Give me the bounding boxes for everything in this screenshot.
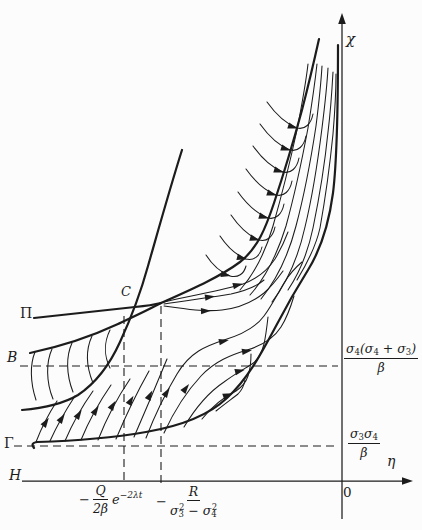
q-fraction: Q 2β [93,483,108,516]
upper-asymptote-numerator: σ4(σ4 + σ3) [344,341,418,359]
chi-axis-label: χ [346,32,355,47]
b-point-label: B [7,350,17,364]
eta-axis-label: η [387,454,395,468]
lower-asymptote-value: σ3σ4 β [348,426,380,460]
flow-arrowhead [57,412,68,424]
trajectory [98,379,130,440]
flow-arrowhead [234,367,245,376]
eta-axis-arrowhead [402,477,413,485]
trajectory [184,317,268,427]
flow-arrowhead [74,408,85,420]
exp-power: −2λt [120,490,143,500]
trajectory [164,271,283,311]
trajectory [88,336,93,383]
x-marker-1-label: − Q 2β e−2λt [79,483,142,516]
upper-asymptote-denominator: β [377,359,384,375]
trajectory [31,352,36,400]
dashed-guides [14,306,338,483]
trajectory [48,349,53,399]
gamma-line-label: Γ [4,436,14,450]
pi-line [34,303,161,318]
exp-base: e [112,492,120,507]
flow-arrowhead [162,386,173,398]
steep-c-curve [22,150,182,410]
flow-arrowhead [126,394,137,406]
flow-arrowhead [180,382,191,394]
trajectory [164,280,264,304]
lower-asymptote-denominator: β [360,444,367,460]
x-marker-2-label: − R σ32 − σ42 [156,484,218,519]
c-point-label: C [121,285,131,298]
flow-arrowhead [218,337,229,345]
trajectory [68,343,73,392]
minus-sign: − [156,494,167,509]
h-line-label: H [9,468,21,482]
trajectory [146,262,302,438]
trajectories [31,64,336,442]
trajectory [116,371,149,439]
phase-portrait-figure: χ η 0 Π B C Γ H σ4(σ4 + σ3) β σ3σ4 β − Q… [0,0,422,530]
flow-arrowhead [41,416,52,428]
minus-sign: − [79,492,90,507]
origin-label: 0 [343,486,352,500]
flow-arrowhead [201,308,211,315]
upper-asymptote-value: σ4(σ4 + σ3) β [344,341,418,375]
trajectory [288,72,333,290]
r-fraction: R σ32 − σ42 [170,484,217,519]
pi-line-label: Π [20,306,32,320]
chi-axis-arrowhead [338,13,346,24]
lower-asymptote-numerator: σ3σ4 [348,426,380,444]
upper-envelope [161,39,319,303]
flow-arrowhead [91,404,102,416]
